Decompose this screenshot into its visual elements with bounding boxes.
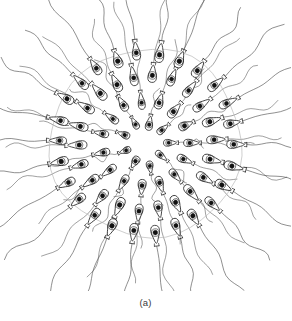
flagellate-cell <box>218 93 242 110</box>
flagellate-cell <box>146 161 155 176</box>
cell-nucleus <box>167 141 171 145</box>
cell-basal-plate <box>91 129 92 133</box>
flagellate-cell <box>68 158 89 172</box>
flagellum <box>39 189 81 224</box>
flagellate-cell <box>190 57 209 79</box>
flagellate-cell <box>203 195 224 215</box>
flagellate-cell <box>127 155 141 172</box>
cell-basal-plate <box>55 186 57 190</box>
flagellum <box>25 30 71 73</box>
flagellum <box>216 185 256 220</box>
cell-nucleus <box>77 143 82 148</box>
flagellate-cell <box>186 208 204 230</box>
flagellum <box>6 143 64 148</box>
flagellum <box>43 37 90 82</box>
flagellate-cell <box>191 94 214 113</box>
flagellate-cell <box>91 188 110 209</box>
cell-basal-plate <box>129 168 133 170</box>
cell-basal-plate <box>154 246 159 247</box>
flagellate-cell <box>101 109 120 125</box>
cell-basal-plate <box>238 95 240 99</box>
flagellate-cell <box>83 207 102 230</box>
flagellate-cell <box>184 139 202 146</box>
flagellum <box>123 0 134 39</box>
flagellate-cell <box>206 73 228 93</box>
flagellum <box>184 0 216 49</box>
cell-basal-plate <box>196 78 200 81</box>
cell-basal-plate <box>179 213 184 215</box>
flagellum <box>205 8 240 60</box>
flagellate-cell <box>150 225 161 247</box>
cell-basal-plate <box>129 243 134 244</box>
cell-basal-plate <box>149 175 153 176</box>
flagellum <box>229 136 282 140</box>
flagellate-cell <box>87 79 109 102</box>
cell-basal-plate <box>85 225 89 228</box>
cell-basal-plate <box>158 220 163 221</box>
cell-basal-plate <box>129 115 132 117</box>
flagellum <box>5 208 69 260</box>
flagellate-cell <box>227 140 247 149</box>
flagellate-cell <box>131 39 141 61</box>
flagellate-cell <box>223 117 244 129</box>
flagellate-cell <box>201 113 225 128</box>
flagellate-cell <box>154 149 170 164</box>
flagellate-cell <box>195 170 218 188</box>
flagellate-cell <box>128 115 141 131</box>
flagellate-cell <box>86 55 104 76</box>
flagellate-cell <box>181 77 201 99</box>
flagellate-cell <box>114 93 130 113</box>
flagellate-cell <box>176 153 196 167</box>
flagellum <box>77 239 106 291</box>
cell-nucleus <box>139 101 143 105</box>
flagellate-cell <box>165 65 180 87</box>
flagellate-cell <box>154 40 166 64</box>
flagellate-cell <box>114 173 130 194</box>
flagellum <box>1 57 55 92</box>
cell-basal-plate <box>54 90 57 95</box>
flagellate-cell <box>134 204 144 225</box>
flagellate-cell <box>137 89 146 109</box>
flagellate-cell <box>153 200 165 221</box>
flagellum <box>0 139 46 146</box>
cell-basal-plate <box>132 39 137 40</box>
cell-nucleus <box>57 138 61 142</box>
cell-basal-plate <box>74 99 77 103</box>
cell-basal-plate <box>232 189 235 194</box>
colony-illustration <box>0 0 291 291</box>
flagellate-cell <box>206 135 228 144</box>
cell-basal-plate <box>91 153 92 157</box>
cell-basal-plate <box>198 225 202 228</box>
cell-basal-plate <box>68 206 71 210</box>
flagellate-cell <box>114 128 130 140</box>
cell-nucleus <box>137 209 142 214</box>
flagellum <box>161 221 176 292</box>
flagellum <box>201 203 244 243</box>
flagellate-cell <box>109 47 124 69</box>
flagellate-cell <box>166 99 186 120</box>
flagellate-cell <box>145 113 155 131</box>
cells-layer <box>45 39 247 247</box>
cell-basal-plate <box>92 204 96 207</box>
figure-root: (a) <box>0 0 291 321</box>
flagellate-cell <box>78 173 101 192</box>
flagellate-cell <box>117 146 132 157</box>
flagellate-cell <box>69 71 90 92</box>
flagellum <box>200 227 244 290</box>
flagellum <box>90 0 114 49</box>
flagellate-cell <box>107 70 124 93</box>
flagellate-cell <box>170 217 185 240</box>
flagellum <box>85 123 115 131</box>
flagella-layer <box>0 0 291 291</box>
flagellate-cell <box>91 147 111 158</box>
flagellum <box>234 192 291 228</box>
flagellate-cell <box>53 88 76 106</box>
flagellum <box>124 244 132 291</box>
flagellate-cell <box>45 113 69 127</box>
cell-nucleus <box>232 142 236 146</box>
flagellum <box>226 24 285 76</box>
flagellum <box>247 170 292 191</box>
cell-basal-plate <box>159 40 164 41</box>
flagellate-cell <box>163 139 178 146</box>
flagellum <box>0 165 47 184</box>
